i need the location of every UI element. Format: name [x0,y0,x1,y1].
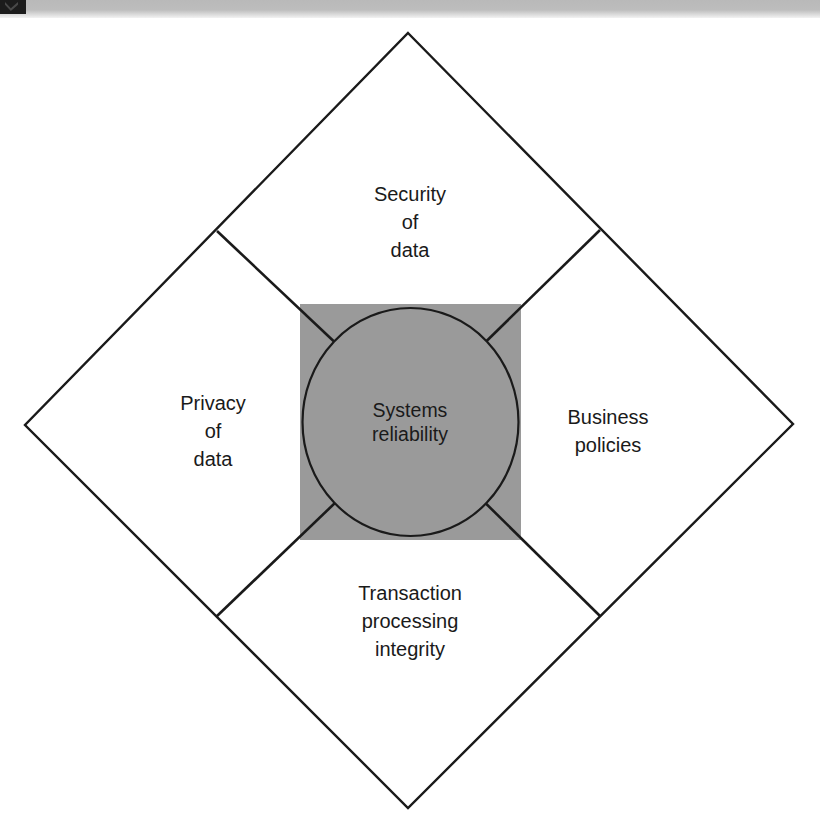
quadrant-left-label-line1: Privacy [180,392,246,414]
quadrant-bottom-label-line3: integrity [375,638,445,660]
center-label-line1: Systems [373,399,448,421]
systems-reliability-diagram: Systems reliability Security of data Pri… [0,0,820,834]
figure-root: Systems reliability Security of data Pri… [0,0,820,834]
quadrant-right-label-line1: Business [567,406,648,428]
quadrant-top-label-line1: Security [374,183,446,205]
quadrant-bottom-label-line1: Transaction [358,582,462,604]
center-label-line2: reliability [372,423,448,445]
quadrant-left-label-line3: data [194,448,234,470]
quadrant-bottom-label-line2: processing [362,610,459,632]
center-circle-shape [303,308,519,536]
quadrant-top-label-line3: data [391,239,431,261]
quadrant-right-label-line2: policies [575,434,642,456]
quadrant-left-label-line2: of [205,420,222,442]
quadrant-top-label-line2: of [402,211,419,233]
